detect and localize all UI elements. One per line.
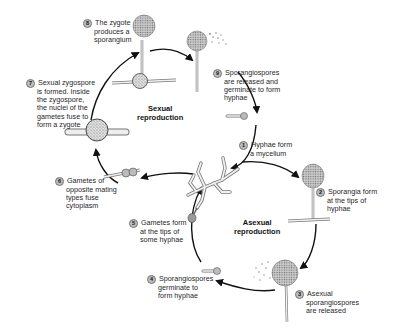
step-1-number-badge: 1 <box>239 141 248 150</box>
step-2-line: Sporangia form <box>328 187 377 196</box>
step-9-line: hyphae <box>213 94 280 102</box>
step-2-line: hyphae <box>316 205 377 213</box>
step-7-number-badge: 7 <box>26 79 35 88</box>
germinating-spore-sexual <box>227 113 248 120</box>
step-6-line: Gametes of <box>67 176 104 185</box>
step-2-number-badge: 2 <box>316 188 325 197</box>
step-5-line: some hyphae <box>129 236 187 244</box>
step-1-line: a mycelium <box>239 150 292 158</box>
step-8-number-badge: 8 <box>83 19 92 28</box>
mycelium-illustration <box>188 158 238 223</box>
step-6-label: 6Gametes of opposite mating types fuse c… <box>55 177 117 211</box>
step-3-line: are released <box>295 307 359 315</box>
step-4-number-badge: 4 <box>147 275 156 284</box>
step-8-line: sporangium <box>83 36 132 44</box>
step-8-label: 8The zygote produces a sporangium <box>83 19 132 44</box>
step-9-line: Sporangiospores <box>225 68 279 77</box>
step-7-line: form a zygote <box>26 121 95 129</box>
asexual-reproduction-label: Asexual reproduction <box>234 218 280 236</box>
step-6-line: cytoplasm <box>55 202 117 210</box>
step-5-line: Gametes form <box>141 218 187 227</box>
step-7-line: Sexual zygospore <box>38 78 95 87</box>
sexual-label-line2: reproduction <box>137 113 183 122</box>
asexual-label-line1: Asexual <box>234 218 280 227</box>
step-3-label: 3Asexual sporangiospores are released <box>295 290 359 315</box>
step-5-number-badge: 5 <box>129 219 138 228</box>
step-3-number-badge: 3 <box>295 290 304 299</box>
step-1-label: 1Hyphae form a mycelium <box>239 141 292 158</box>
step-4-label: 4Sporangiospores germinate to form hypha… <box>147 275 213 300</box>
step-5-label: 5Gametes form at the tips of some hyphae <box>129 219 187 244</box>
asexual-label-line2: reproduction <box>234 227 280 236</box>
step-9-number-badge: 9 <box>213 69 222 78</box>
rhizopus-life-cycle-diagram: Sexual reproduction Asexual reproduction… <box>0 0 394 336</box>
step-6-number-badge: 6 <box>55 177 64 186</box>
step-1-line: Hyphae form <box>251 140 292 149</box>
step-9-label: 9Sporangiospores are released and germin… <box>213 69 280 103</box>
sexual-label-line1: Sexual <box>137 104 183 113</box>
step-3-line: Asexual <box>307 289 333 298</box>
step-4-line: form hyphae <box>147 292 213 300</box>
step-8-line: The zygote <box>95 18 131 27</box>
step-2-label: 2Sporangia form at the tips of hyphae <box>316 188 377 213</box>
sexual-reproduction-label: Sexual reproduction <box>137 104 183 122</box>
gametes-fusing-illustration <box>104 168 140 177</box>
step-4-line: Sporangiospores <box>159 274 213 283</box>
step-7-label: 7Sexual zygospore is formed. Inside the … <box>26 79 95 129</box>
